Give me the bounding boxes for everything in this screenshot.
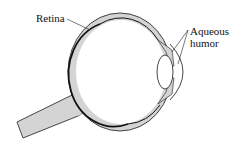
aqueous-leader-line-1 bbox=[172, 30, 188, 52]
aqueous-humor-label-line2: humor bbox=[190, 38, 219, 49]
aqueous-leader-line-2 bbox=[178, 30, 188, 64]
retina-leader-line bbox=[67, 19, 90, 30]
lens bbox=[157, 55, 173, 89]
vitreous-chamber bbox=[76, 20, 166, 124]
aqueous-humor-label-line1: Aqueous bbox=[190, 26, 229, 37]
retina-label: Retina bbox=[36, 13, 65, 24]
